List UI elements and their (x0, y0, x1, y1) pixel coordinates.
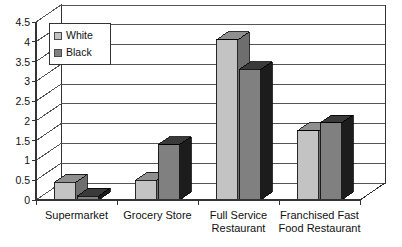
legend-item-black: Black (54, 44, 106, 61)
x-axis-tick-label-line: Franchised Fast (279, 209, 361, 222)
x-axis-tick-label-line: Grocery Store (123, 209, 191, 222)
x-axis-tick-label-line: Supermarket (45, 209, 108, 222)
legend-swatch-white (54, 32, 62, 40)
x-axis-tick-label: Supermarket (45, 209, 108, 222)
x-axis-tick-label-line: Restaurant (210, 222, 267, 235)
x-axis-tick-label: Full ServiceRestaurant (210, 209, 267, 234)
x-axis-tick-label-line: Food Restaurant (279, 222, 361, 235)
x-axis-tick-label: Grocery Store (123, 209, 191, 222)
legend-label-white: White (66, 30, 93, 41)
x-axis-tick-label: Franchised FastFood Restaurant (279, 209, 361, 234)
legend-swatch-black (54, 49, 62, 57)
legend-label-black: Black (66, 47, 92, 58)
legend-item-white: White (54, 27, 106, 44)
x-axis-tick-label-line: Full Service (210, 209, 267, 222)
bar-chart: 4.543.532.521.510.50 SupermarketGrocery … (0, 0, 402, 247)
legend: White Black (49, 23, 111, 65)
